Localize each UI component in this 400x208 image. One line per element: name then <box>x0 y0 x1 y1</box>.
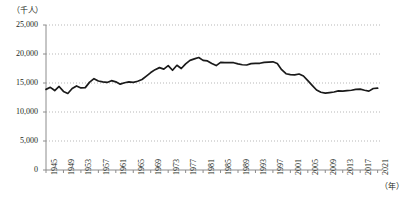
data-series-line <box>46 57 378 93</box>
axis-lines <box>46 25 382 170</box>
x-tick-label: 1945 <box>50 159 59 175</box>
x-tick-label: 1969 <box>154 159 163 175</box>
x-tick-label: 2005 <box>311 159 320 175</box>
x-tick-label: 2013 <box>346 159 355 175</box>
x-tick-label: 1961 <box>119 159 128 175</box>
x-tick-label: 1965 <box>137 159 146 175</box>
y-tick-label: 0 <box>0 165 38 174</box>
y-tick-label: 15,000 <box>0 78 38 87</box>
x-tick-label: 1977 <box>189 159 198 175</box>
x-tick-label: 1953 <box>84 159 93 175</box>
x-tick-label: 1981 <box>207 159 216 175</box>
x-tick-label: 2009 <box>329 159 338 175</box>
x-axis-unit-label: （年） <box>380 180 400 191</box>
x-tick-label: 1985 <box>224 159 233 175</box>
x-tick-label: 1957 <box>102 159 111 175</box>
x-tick-label: 1949 <box>67 159 76 175</box>
x-tick-label: 1993 <box>259 159 268 175</box>
y-tick-label: 20,000 <box>0 49 38 58</box>
chart-container: （千人） 05,00010,00015,00020,00025,000 1945… <box>0 0 400 208</box>
x-tick-label: 1973 <box>172 159 181 175</box>
y-tick-label: 10,000 <box>0 107 38 116</box>
line-chart-plot <box>0 0 400 208</box>
x-tick-label: 1989 <box>242 159 251 175</box>
y-tick-label: 25,000 <box>0 20 38 29</box>
x-tick-label: 2017 <box>364 159 373 175</box>
x-tick-label: 2001 <box>294 159 303 175</box>
x-tick-label: 1997 <box>276 159 285 175</box>
x-tick-label: 2021 <box>381 159 390 175</box>
y-tick-label: 5,000 <box>0 136 38 145</box>
gridlines <box>46 25 382 141</box>
